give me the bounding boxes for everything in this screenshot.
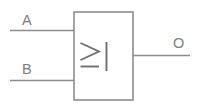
logic-gate-diagram: A B O [0, 0, 199, 109]
input-a-label: A [22, 12, 32, 28]
output-o-label: O [173, 35, 184, 51]
label-layer: A B O [0, 0, 199, 109]
input-b-label: B [22, 61, 32, 77]
